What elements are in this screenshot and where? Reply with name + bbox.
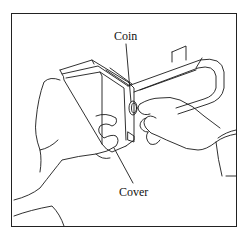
coin-leader-line	[126, 44, 131, 102]
right-hand	[138, 97, 236, 176]
device-handle	[128, 46, 224, 114]
cover-label: Cover	[119, 186, 148, 198]
coin-label: Coin	[114, 30, 137, 42]
cover-leader-line	[114, 148, 133, 183]
coin-shape	[128, 101, 137, 142]
device-body	[60, 60, 134, 152]
